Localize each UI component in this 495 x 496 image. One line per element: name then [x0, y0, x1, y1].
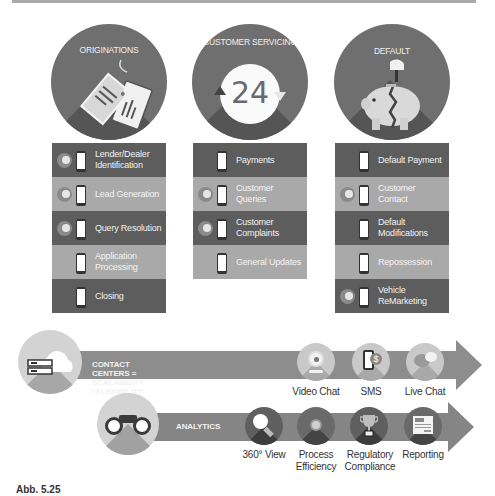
- list-item-customer-contact[interactable]: Customer Contact: [335, 177, 449, 211]
- figure-caption-number: Abb. 5.25: [16, 484, 60, 495]
- reporting-label: Reporting: [396, 449, 450, 461]
- list-item-label: Default Payment: [378, 155, 447, 166]
- target-icon: [310, 419, 322, 431]
- phone-icon: [217, 185, 227, 206]
- chat-badge-icon: [57, 221, 72, 236]
- binoculars-icon: [105, 415, 151, 435]
- 24-label: 24: [220, 76, 280, 110]
- phone-icon: [359, 253, 369, 274]
- live-chat-circle[interactable]: [406, 343, 444, 381]
- dollar-badge-icon: $: [370, 353, 382, 365]
- phone-icon: [217, 219, 227, 240]
- video-chat-circle[interactable]: [297, 343, 335, 381]
- arrow-head: [456, 340, 482, 390]
- list-item-general-updates[interactable]: General Updates: [193, 245, 307, 279]
- sms-label: SMS: [350, 386, 392, 398]
- top-divider: [12, 0, 476, 3]
- 360-view-circle[interactable]: [245, 407, 283, 445]
- phone-icon: [359, 185, 369, 206]
- list-item-label: General Updates: [236, 257, 305, 268]
- contact-centers-banner-text: CONTACT CENTERS = SCALABILITY / FLEXIBIL…: [92, 360, 144, 396]
- analytics-banner-text: ANALYTICS: [176, 422, 220, 431]
- chat-badge-icon: [198, 221, 213, 236]
- cloud-server-circle: [18, 330, 82, 394]
- list-item-query-resolution[interactable]: Query Resolution: [52, 211, 166, 245]
- list-item-label: Customer Contact: [378, 183, 447, 205]
- regulatory-compliance-label: Regulatory Compliance: [340, 449, 400, 473]
- trophy-icon: [360, 414, 378, 438]
- chat-badge-icon: [57, 153, 72, 168]
- default-header-circle: DEFAULT: [334, 24, 450, 140]
- list-item-lender-dealer-identification[interactable]: Lender/Dealer Identification: [52, 143, 166, 177]
- webcam-icon: [308, 351, 324, 367]
- list-item-label: Lead Generation: [95, 189, 164, 200]
- list-item-label: Query Resolution: [95, 223, 164, 234]
- price-tags-icon: [73, 58, 153, 140]
- phone-icon: [76, 151, 86, 172]
- default-list: Default Payment Customer Contact Default…: [335, 143, 449, 313]
- process-efficiency-label: Process Efficiency: [288, 449, 344, 473]
- regulatory-compliance-circle[interactable]: [350, 407, 388, 445]
- phone-icon: [359, 219, 369, 240]
- list-item-label: Vehicle ReMarketing: [378, 285, 447, 307]
- chat-badge-icon: [57, 187, 72, 202]
- process-efficiency-circle[interactable]: [297, 407, 335, 445]
- list-item-label: Repossession: [378, 257, 447, 268]
- phone-icon: [359, 151, 369, 172]
- list-item-customer-complaints[interactable]: Customer Complaints: [193, 211, 307, 245]
- column-title: ORIGINATIONS: [51, 45, 167, 56]
- binoculars-circle: [97, 393, 159, 455]
- list-item-label: Payments: [236, 155, 305, 166]
- list-item-label: Default Modifications: [378, 217, 447, 239]
- reporting-circle[interactable]: [404, 407, 442, 445]
- chat-badge-icon: [340, 289, 355, 304]
- phone-icon: [217, 151, 227, 172]
- list-item-label: Customer Complaints: [236, 217, 305, 239]
- list-item-repossession[interactable]: Repossession: [335, 245, 449, 279]
- video-chat-label: Video Chat: [285, 386, 347, 398]
- list-item-label: Customer Queries: [236, 183, 305, 205]
- list-item-vehicle-remarketing[interactable]: Vehicle ReMarketing: [335, 279, 449, 313]
- originations-list: Lender/Dealer Identification Lead Genera…: [52, 143, 166, 313]
- list-item-label: Lender/Dealer Identification: [95, 149, 164, 171]
- live-chat-label: Live Chat: [396, 386, 454, 398]
- list-item-application-processing[interactable]: Application Processing: [52, 245, 166, 279]
- list-item-customer-queries[interactable]: Customer Queries: [193, 177, 307, 211]
- phone-icon: [76, 287, 86, 308]
- chat-badge-icon: [340, 187, 355, 202]
- list-item-closing[interactable]: Closing: [52, 279, 166, 313]
- list-item-default-payment[interactable]: Default Payment: [335, 143, 449, 177]
- list-item-default-modifications[interactable]: Default Modifications: [335, 211, 449, 245]
- phone-icon: [76, 253, 86, 274]
- chat-badge-icon: [198, 187, 213, 202]
- list-item-label: Application Processing: [95, 251, 164, 273]
- arrow-head: [448, 402, 474, 452]
- webcam-base: [309, 370, 323, 373]
- cloud-server-icon: [26, 348, 76, 380]
- broken-piggy-bank-icon: [352, 58, 434, 138]
- phone-icon: [359, 287, 369, 308]
- phone-icon: [76, 185, 86, 206]
- column-title: CUSTOMER SERVICING: [192, 37, 308, 48]
- column-title: DEFAULT: [334, 46, 450, 57]
- chat-bubble-secondary: [425, 352, 437, 362]
- customer-servicing-header-circle: CUSTOMER SERVICING 24: [192, 24, 308, 140]
- figure-caption: Abb. 5.25: [16, 484, 60, 495]
- list-item-label: Closing: [95, 291, 164, 302]
- customer-servicing-list: Payments Customer Queries Customer Compl…: [193, 143, 307, 279]
- 360-view-label: 360° View: [235, 449, 293, 461]
- phone-icon: [217, 253, 227, 274]
- list-item-payments[interactable]: Payments: [193, 143, 307, 177]
- 24-hours-icon: 24: [220, 64, 280, 124]
- list-item-lead-generation[interactable]: Lead Generation: [52, 177, 166, 211]
- report-document-icon: [413, 416, 433, 434]
- sms-circle[interactable]: $: [352, 343, 390, 381]
- originations-header-circle: ORIGINATIONS: [51, 24, 167, 140]
- phone-icon: [76, 219, 86, 240]
